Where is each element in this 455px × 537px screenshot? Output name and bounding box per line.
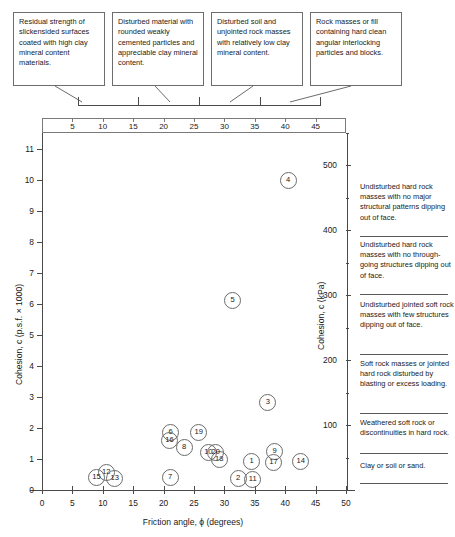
x-axis-line <box>30 490 355 491</box>
x-tick-label: 10 <box>98 498 107 508</box>
top-scale-label: 40 <box>281 122 290 131</box>
x-tick <box>133 486 134 494</box>
data-point-19: 19 <box>190 424 207 441</box>
legend-block-1: Undisturbed hard rock masses with no maj… <box>360 182 454 223</box>
y-tick-label: 3 <box>12 392 34 402</box>
legend-rule-3 <box>360 354 448 355</box>
top-scale-label: 15 <box>129 122 138 131</box>
x-tick <box>164 486 165 494</box>
x-tick <box>224 486 225 494</box>
y-tick <box>37 304 42 305</box>
legend-block-6: Clay or soil or sand. <box>360 461 454 471</box>
x-tick <box>103 486 104 494</box>
description-box-4: Rock masses or fill containing hard clea… <box>310 12 402 86</box>
y2-tick <box>346 198 349 199</box>
top-scale-label: 10 <box>98 122 107 131</box>
y-tick-label: 0 <box>12 485 34 495</box>
x-tick <box>346 486 347 494</box>
top-scale-label: 45 <box>311 122 320 131</box>
description-box-2: Disturbed material with rounded weakly c… <box>112 12 204 86</box>
y-tick-label: 1 <box>12 454 34 464</box>
y2-tick <box>346 393 349 394</box>
x-tick <box>42 486 43 494</box>
y-tick <box>37 428 42 429</box>
classification-tick-2 <box>138 97 139 106</box>
x-tick <box>285 486 286 494</box>
x-tick-label: 25 <box>189 498 198 508</box>
y2-tick <box>346 328 349 329</box>
y-tick <box>37 273 42 274</box>
leader-lines <box>0 84 455 112</box>
x-axis-title: Friction angle, ϕ (degrees) <box>143 517 243 527</box>
classification-tick-5 <box>320 97 321 106</box>
y2-tick-label: 400 <box>306 225 337 235</box>
y2-tick <box>346 165 351 166</box>
y2-tick <box>346 295 351 296</box>
legend-rule-5 <box>360 453 448 454</box>
y2-axis-title: Cohesion, c (kPa) <box>316 282 326 350</box>
figure-root: Residual strength of slickensided surfac… <box>0 0 455 537</box>
y2-tick <box>346 263 349 264</box>
data-point-11: 11 <box>244 471 261 488</box>
data-point-4: 4 <box>280 172 297 189</box>
x-tick-label: 50 <box>341 498 350 508</box>
x-tick-label: 5 <box>70 498 75 508</box>
y-tick-label: 7 <box>12 268 34 278</box>
legend-rule-2 <box>360 294 448 295</box>
y-tick-label: 2 <box>12 423 34 433</box>
y-tick <box>37 335 42 336</box>
x-tick <box>316 486 317 494</box>
y-tick-label: 10 <box>12 175 34 185</box>
y-axis-title: Cohesion, c (p.s.f. × 1000) <box>14 284 24 385</box>
data-point-17: 17 <box>265 454 282 471</box>
classification-tick-3 <box>199 97 200 106</box>
x-tick-label: 45 <box>311 498 320 508</box>
y2-tick-label: 200 <box>306 355 337 365</box>
classification-tick-1 <box>78 97 79 106</box>
x-tick-label: 40 <box>281 498 290 508</box>
y-tick <box>37 180 42 181</box>
legend-block-2: Undisturbed hard rock masses with no thr… <box>360 240 454 281</box>
top-scale-label: 35 <box>250 122 259 131</box>
top-scale-label: 25 <box>190 122 199 131</box>
y2-tick <box>346 458 349 459</box>
top-scale-label: 20 <box>159 122 168 131</box>
legend-rule-4 <box>360 413 448 414</box>
y-tick <box>37 397 42 398</box>
x-tick-label: 20 <box>159 498 168 508</box>
top-scale-label: 30 <box>220 122 229 131</box>
legend-rule-1 <box>360 236 448 237</box>
data-point-7: 7 <box>162 469 179 486</box>
data-point-1: 1 <box>243 453 260 470</box>
description-box-1: Residual strength of slickensided surfac… <box>13 12 105 86</box>
y-tick-label: 8 <box>12 237 34 247</box>
y-tick-label: 11 <box>12 144 34 154</box>
x-tick-label: 0 <box>40 498 45 508</box>
data-point-8: 8 <box>176 439 193 456</box>
y-tick <box>37 366 42 367</box>
legend-rule-6 <box>360 483 448 484</box>
y-tick <box>37 242 42 243</box>
y2-tick <box>346 133 349 134</box>
legend-block-3: Undisturbed jointed soft rock masses wit… <box>360 300 454 331</box>
classification-tick-4 <box>260 97 261 106</box>
y2-tick-label: 500 <box>306 160 337 170</box>
legend-block-4: Soft rock masses or jointed hard rock di… <box>360 359 454 390</box>
x-tick-label: 30 <box>220 498 229 508</box>
x-tick-label: 35 <box>250 498 259 508</box>
y2-tick <box>346 360 351 361</box>
x-tick <box>194 486 195 494</box>
x-tick-label: 15 <box>129 498 138 508</box>
y-tick-label: 9 <box>12 206 34 216</box>
y-tick <box>37 211 42 212</box>
top-scale-label: 5 <box>70 122 74 131</box>
data-point-5: 5 <box>224 292 241 309</box>
y2-tick <box>346 425 351 426</box>
x-tick <box>72 486 73 494</box>
y-tick <box>37 459 42 460</box>
y-tick <box>37 149 42 150</box>
y2-tick-label: 100 <box>306 420 337 430</box>
legend-block-5: Weathered soft rock or discontinuities i… <box>360 418 454 438</box>
description-box-3: Disturbed soil and unjointed rock masses… <box>211 12 303 86</box>
y2-tick <box>346 230 351 231</box>
